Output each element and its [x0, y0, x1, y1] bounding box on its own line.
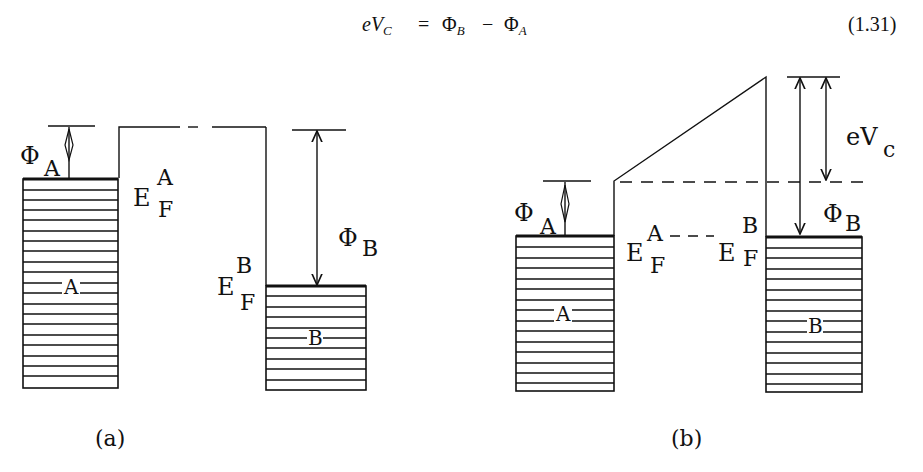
caption-b: (b)	[671, 426, 702, 451]
svg-text:E: E	[626, 239, 644, 267]
svg-text:F: F	[650, 253, 665, 278]
svg-text:ΦA: ΦA	[504, 13, 527, 38]
svg-text:c: c	[883, 137, 895, 162]
svg-text:A: A	[539, 214, 557, 239]
svg-text:B: B	[845, 211, 861, 236]
svg-text:eVC: eVC	[362, 13, 392, 38]
svg-text:F: F	[158, 197, 173, 222]
equation-1-31: eVC = ΦB − ΦA (1.31)	[362, 13, 896, 38]
svg-text:B: B	[308, 326, 323, 350]
svg-text:E: E	[718, 239, 736, 267]
panel-b	[516, 77, 870, 392]
svg-text:B: B	[808, 314, 823, 338]
equation-number: (1.31)	[848, 13, 896, 36]
panel-b-labels: Φ A E A F E B F Φ B eV c A B (b)	[514, 123, 895, 451]
svg-text:Φ: Φ	[20, 142, 40, 170]
panel-a	[23, 126, 366, 390]
svg-text:eV: eV	[846, 123, 878, 151]
svg-text:B: B	[236, 253, 252, 278]
svg-text:ΦB: ΦB	[442, 13, 465, 38]
svg-text:B: B	[362, 236, 378, 261]
svg-text:A: A	[43, 156, 61, 181]
svg-text:F: F	[240, 290, 255, 315]
svg-text:B: B	[742, 213, 758, 238]
svg-text:−: −	[482, 13, 493, 35]
svg-text:F: F	[743, 246, 758, 271]
svg-text:A: A	[156, 165, 174, 190]
svg-text:A: A	[63, 275, 79, 299]
svg-text:Φ: Φ	[338, 224, 358, 252]
svg-text:A: A	[646, 221, 664, 246]
svg-text:Φ: Φ	[823, 200, 843, 228]
caption-a: (a)	[95, 426, 125, 451]
band-diagram-canvas: eVC = ΦB − ΦA (1.31)	[0, 0, 923, 472]
svg-text:E: E	[217, 273, 235, 301]
svg-text:A: A	[555, 302, 571, 326]
figure-contact-potential: eVC = ΦB − ΦA (1.31)	[0, 0, 923, 472]
svg-text:=: =	[418, 13, 429, 35]
svg-text:E: E	[133, 184, 151, 212]
svg-text:Φ: Φ	[514, 199, 534, 227]
